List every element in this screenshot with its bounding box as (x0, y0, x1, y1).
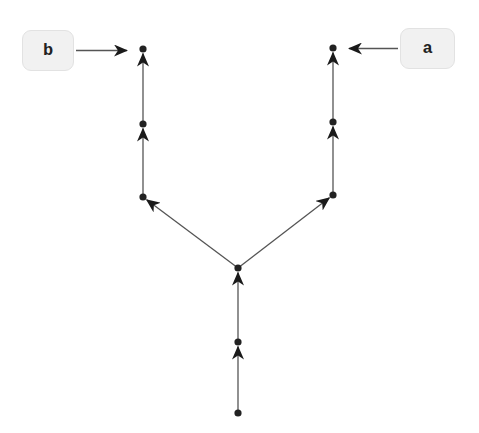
edge-n2-n3 (147, 200, 238, 268)
node-n7 (329, 118, 336, 125)
edges-group (143, 53, 333, 413)
node-n2 (234, 264, 241, 271)
label-box-a: a (400, 28, 455, 69)
node-n5 (139, 45, 146, 52)
node-n8 (329, 44, 336, 51)
edge-n2-n6 (238, 198, 329, 268)
label-box-b: b (22, 30, 74, 71)
node-n4 (139, 120, 146, 127)
node-n3 (139, 193, 146, 200)
label-a-text: a (422, 39, 432, 58)
label-b-text: b (43, 41, 53, 60)
label-arrows-group (76, 49, 398, 51)
diagram-canvas: b a (0, 0, 479, 433)
node-n6 (329, 191, 336, 198)
node-n1 (234, 338, 241, 345)
node-n0 (234, 409, 241, 416)
